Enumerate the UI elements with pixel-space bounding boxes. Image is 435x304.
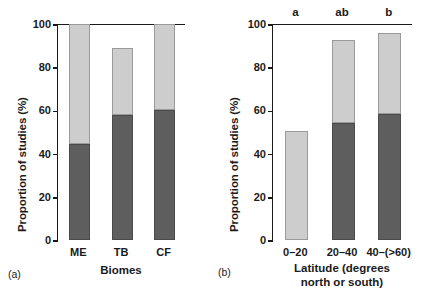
x-axis-title-line-0: Latitude (degrees [294,261,390,275]
y-tick-label-80: 80 [21,61,51,73]
bar-segment-dark-CF [154,110,175,240]
x-category-label-TB: TB [114,246,129,258]
bar-segment-dark-40–(>60) [378,114,401,240]
y-tick-label-80: 80 [236,61,266,73]
y-tick-label-40: 40 [21,148,51,160]
bar-segment-light-20–40 [332,40,355,123]
x-category-label-ME: ME [70,246,87,258]
y-tick-label-60: 60 [236,104,266,116]
figure-stacked-bar-charts: Proportion of studies (%) (a) Biomes 020… [0,0,435,304]
y-tick-80 [268,67,273,69]
bar-0–20 [285,24,308,240]
bar-segment-dark-20–40 [332,123,355,240]
y-tick-0 [268,240,273,242]
y-tick-label-100: 100 [21,18,51,30]
x-axis-title-b: Latitude (degreesnorth or south) [294,261,390,289]
y-tick-label-40: 40 [236,148,266,160]
plot-area-a [57,24,185,240]
x-category-label-20–40: 20–40 [327,246,358,258]
y-tick-label-20: 20 [21,191,51,203]
bar-segment-light-40–(>60) [378,33,401,114]
bar-ME [69,24,90,240]
x-category-label-0–20: 0–20 [283,246,307,258]
panel-tag-a: (a) [8,268,21,280]
significance-letter-20–40: ab [335,6,348,18]
y-tick-100 [268,24,273,26]
panel-tag-b: (b) [218,266,231,278]
y-axis-title-a: Proportion of studies (%) [16,97,28,232]
y-tick-0 [53,240,58,242]
bar-CF [154,24,175,240]
bar-segment-dark-ME [69,144,90,240]
y-tick-label-0: 0 [236,234,266,246]
y-axis-title-b: Proportion of studies (%) [228,97,240,232]
y-tick-100 [53,24,58,26]
x-category-label-40–(>60): 40–(>60) [366,246,410,258]
bar-segment-light-CF [154,24,175,110]
y-tick-60 [268,111,273,113]
bar-40–(>60) [378,24,401,240]
significance-letter-40–(>60): b [385,6,392,18]
bar-TB [112,24,133,240]
x-axis-title-line-1: north or south) [294,275,390,289]
bar-segment-light-TB [112,48,133,115]
bar-segment-light-ME [69,24,90,144]
bar-20–40 [332,24,355,240]
panel-b: Proportion of studies (%) (b) Latitude (… [212,0,435,304]
x-axis-title-line-0: Biomes [100,263,142,277]
y-tick-40 [268,154,273,156]
y-tick-label-100: 100 [236,18,266,30]
y-tick-80 [53,67,58,69]
x-axis-title-a: Biomes [100,263,142,277]
y-tick-40 [53,154,58,156]
significance-letter-0–20: a [292,6,298,18]
y-tick-label-0: 0 [21,234,51,246]
y-tick-20 [53,197,58,199]
bar-segment-light-0–20 [285,131,308,240]
panel-a: Proportion of studies (%) (a) Biomes 020… [0,0,212,304]
y-tick-20 [268,197,273,199]
plot-area-b [272,24,412,240]
x-category-label-CF: CF [156,246,171,258]
y-tick-60 [53,111,58,113]
y-tick-label-20: 20 [236,191,266,203]
bar-segment-dark-TB [112,115,133,240]
y-tick-label-60: 60 [21,104,51,116]
